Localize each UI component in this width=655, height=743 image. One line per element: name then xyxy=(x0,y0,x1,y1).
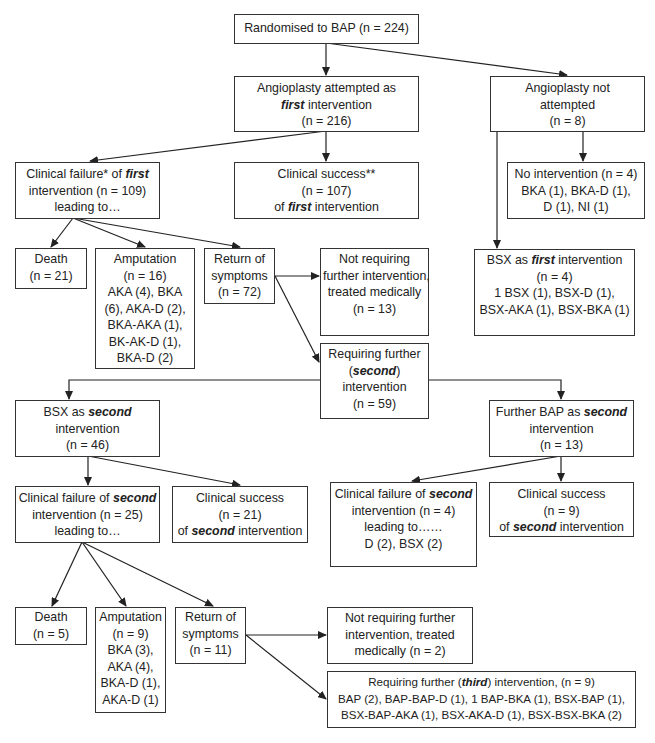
node-text-line: intervention xyxy=(492,421,631,438)
node-text-line: (n = 9) xyxy=(492,503,631,520)
node-text-line: AKA (4), BKA xyxy=(98,284,192,301)
node-text-line: AKA (4), xyxy=(98,659,163,676)
node-text-line: (n = 13) xyxy=(492,437,631,454)
node-text-line: symptoms xyxy=(178,626,243,643)
node-text-line: Angioplasty attempted as xyxy=(237,80,416,97)
node-death-1: Death(n = 21) xyxy=(15,248,87,289)
node-text-line: (n = 59) xyxy=(323,396,426,413)
node-text-line: Amputation xyxy=(98,609,163,626)
node-text-line: Clinical success** xyxy=(237,166,416,183)
node-text-line: intervention (n = 4) xyxy=(333,503,474,520)
node-text-line: Clinical failure* of first xyxy=(18,166,157,183)
node-death-2: Death(n = 5) xyxy=(15,607,87,645)
node-text-line: medically (n = 2) xyxy=(330,643,470,660)
node-text-line: No intervention (n = 4) xyxy=(510,166,642,183)
node-text-line: Not requiring xyxy=(323,251,426,268)
node-text-line: Requiring further xyxy=(323,346,426,363)
node-text-line: Not requiring further xyxy=(330,610,470,627)
node-text-line: treated medically xyxy=(323,284,426,301)
node-no-intervention: No intervention (n = 4)BKA (1), BKA-D (1… xyxy=(507,162,645,219)
node-text-line: (n = 8) xyxy=(493,113,642,130)
node-requiring-second: Requiring further(second)intervention(n … xyxy=(320,343,429,419)
node-text-line: (n = 13) xyxy=(323,301,426,318)
node-text-line: leading to… xyxy=(18,199,157,216)
node-text-line: Return of xyxy=(178,609,243,626)
node-text-line: (n = 4) xyxy=(477,269,632,286)
node-randomised: Randomised to BAP (n = 224) xyxy=(234,14,419,44)
node-text-line: BSX-AKA (1), BSX-BKA (1) xyxy=(477,302,632,319)
node-bap-second: Further BAP as secondintervention(n = 13… xyxy=(489,400,634,457)
node-text-line: Amputation xyxy=(98,251,192,268)
node-text-line: leading to… xyxy=(18,523,157,540)
node-text-line: (n = 16) xyxy=(98,268,192,285)
node-text-line: Death xyxy=(18,251,84,268)
node-text-line: Clinical failure of second xyxy=(333,486,474,503)
node-text-line: intervention (n = 25) xyxy=(18,507,157,524)
node-requiring-third: Requiring further (third) intervention, … xyxy=(327,671,636,728)
node-angioplasty-attempted: Angioplasty attempted asfirst interventi… xyxy=(234,76,419,132)
node-bsx-second: BSX as secondintervention(n = 46) xyxy=(15,400,160,457)
node-text-line: BSX as first intervention xyxy=(477,252,632,269)
node-text-line: (n = 21) xyxy=(18,268,84,285)
node-angioplasty-not-attempted: Angioplasty notattempted(n = 8) xyxy=(490,76,645,132)
node-clinical-failure-first: Clinical failure* of firstintervention (… xyxy=(15,162,160,219)
node-text-line: intervention xyxy=(323,379,426,396)
node-text-line: BKA-AKA (1), xyxy=(98,317,192,334)
node-clinical-success-second-bsx: Clinical success(n = 21)of second interv… xyxy=(172,486,308,543)
node-text-line: AKA-D (1) xyxy=(98,692,163,709)
node-text-line: BK-AK-D (1), xyxy=(98,334,192,351)
node-text-line: BSX as second xyxy=(18,404,157,421)
node-text-line: Further BAP as second xyxy=(492,404,631,421)
node-text-line: 1 BSX (1), BSX-D (1), xyxy=(477,285,632,302)
flowchart: Randomised to BAP (n = 224) Angioplasty … xyxy=(0,0,655,743)
node-amputation-1: Amputation(n = 16)AKA (4), BKA(6), AKA-D… xyxy=(95,248,195,369)
node-text-line: BKA (3), xyxy=(98,642,163,659)
node-return-symptoms-1: Return ofsymptoms(n = 72) xyxy=(204,248,275,304)
node-text-line: D (1), NI (1) xyxy=(510,199,642,216)
node-text-line: intervention (n = 109) xyxy=(18,183,157,200)
node-text-line: of first intervention xyxy=(237,199,416,216)
node-text-line: (n = 216) xyxy=(237,113,416,130)
node-text-line: Clinical success xyxy=(175,490,305,507)
node-text-line: of second intervention xyxy=(175,523,305,540)
node-clinical-failure-second-bsx: Clinical failure of secondintervention (… xyxy=(15,486,160,543)
node-text-line: Requiring further (third) intervention, … xyxy=(330,674,633,691)
node-text-line: (n = 72) xyxy=(207,284,272,301)
node-text-line: (n = 46) xyxy=(18,437,157,454)
node-text-line: Clinical success xyxy=(492,486,631,503)
node-text-line: intervention xyxy=(18,421,157,438)
node-text-line: BSX-BAP-AKA (1), BSX-AKA-D (1), BSX-BSX-… xyxy=(330,707,633,724)
node-text-line: Clinical failure of second xyxy=(18,490,157,507)
node-return-symptoms-2: Return ofsymptoms(n = 11) xyxy=(175,607,246,664)
node-text-line: BKA (1), BKA-D (1), xyxy=(510,183,642,200)
node-text-line: intervention, treated xyxy=(330,627,470,644)
node-text-line: further intervention, xyxy=(323,268,426,285)
node-text-line: symptoms xyxy=(207,268,272,285)
node-text-line: BAP (2), BAP-BAP-D (1), 1 BAP-BKA (1), B… xyxy=(330,691,633,708)
node-bsx-first: BSX as first intervention(n = 4)1 BSX (1… xyxy=(474,249,635,336)
node-text-line: BKA-D (2) xyxy=(98,350,192,367)
node-clinical-failure-second-bap: Clinical failure of secondintervention (… xyxy=(330,482,477,567)
node-text-line: attempted xyxy=(493,97,642,114)
node-amputation-2: Amputation(n = 9)BKA (3),AKA (4),BKA-D (… xyxy=(95,607,166,713)
node-text-line: (n = 11) xyxy=(178,642,243,659)
node-text-line: (n = 21) xyxy=(175,507,305,524)
node-text-line: Randomised to BAP (n = 224) xyxy=(237,20,416,37)
node-text-line: Death xyxy=(18,609,84,626)
node-text-line: D (2), BSX (2) xyxy=(333,536,474,553)
node-not-requiring-2: Not requiring furtherintervention, treat… xyxy=(327,607,473,664)
node-text-line: (second) xyxy=(323,363,426,380)
node-text-line: (6), AKA-D (2), xyxy=(98,301,192,318)
node-text-line: (n = 5) xyxy=(18,626,84,643)
node-text-line: of second intervention xyxy=(492,519,631,536)
node-clinical-success-first: Clinical success**(n = 107)of first inte… xyxy=(234,162,419,219)
node-clinical-success-second-bap: Clinical success(n = 9)of second interve… xyxy=(489,482,634,537)
node-text-line: Return of xyxy=(207,251,272,268)
node-text-line: (n = 107) xyxy=(237,183,416,200)
node-text-line: BKA-D (1), xyxy=(98,675,163,692)
node-text-line: (n = 9) xyxy=(98,626,163,643)
node-text-line: leading to…… xyxy=(333,519,474,536)
node-not-requiring-1: Not requiringfurther intervention,treate… xyxy=(320,248,429,336)
node-text-line: first intervention xyxy=(237,97,416,114)
node-text-line: Angioplasty not xyxy=(493,80,642,97)
